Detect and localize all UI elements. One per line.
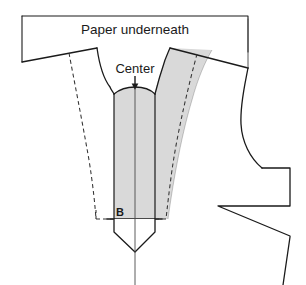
point-b-label: B — [116, 206, 124, 218]
paper-underneath-label: Paper underneath — [81, 22, 189, 37]
pattern-diagram-svg: Paper underneath Center B — [0, 0, 306, 285]
center-label: Center — [115, 61, 155, 76]
center-shaded-strip — [114, 94, 155, 219]
pattern-diagram-container: Paper underneath Center B — [0, 0, 306, 285]
